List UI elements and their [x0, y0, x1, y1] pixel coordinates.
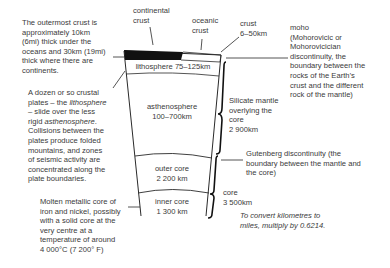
asthenosphere-label: asthenosphere 100–700km: [132, 102, 212, 121]
inner-core-boundary: [138, 190, 209, 194]
core-note: Molten metallic core of iron and nickel,…: [40, 197, 121, 255]
plates-note-part3: . Collisions between the plates produce …: [28, 117, 105, 184]
gutenberg-boundary: [135, 153, 212, 158]
crust-label: crust 6–50km: [240, 19, 267, 38]
gutenberg-label: Gutenberg discontinuity (the boundary be…: [246, 149, 361, 178]
core-label: core 3 500km: [223, 188, 252, 207]
plates-pointer: [113, 71, 125, 88]
moho-label: moho (Mohorovicic or Mohorovicician disc…: [290, 23, 365, 100]
plates-note-lithosphere: lithosphere: [69, 98, 106, 107]
core-brace: [208, 156, 218, 218]
plates-note-asthenosphere: asthenosphere: [44, 117, 94, 126]
oceanic-crust-pointer: [201, 39, 202, 50]
lithosphere-boundary: [126, 73, 219, 76]
continental-crust-pointer: [150, 27, 153, 45]
lithosphere-label: lithosphere 75–125km: [130, 62, 216, 72]
oceanic-crust-label: oceanic crust: [192, 16, 218, 35]
outer-crust-note: The outermost crust is approximately 10k…: [22, 18, 106, 76]
crust-pointer: [221, 37, 239, 52]
conversion-note: To convert kilometres to miles, multiply…: [240, 211, 325, 230]
wedge-outline: [124, 51, 221, 216]
plates-note: A dozen or so crustal plates – the litho…: [28, 88, 107, 184]
silicate-mantle-label: Silicate mantle overlying the core 2 900…: [229, 96, 278, 134]
outer-core-label: outer core 2 200 km: [140, 164, 204, 183]
inner-core-label: inner core 1 300 km: [140, 197, 204, 216]
continental-crust-fill: [124, 50, 183, 60]
continental-crust-label: continental crust: [133, 6, 170, 25]
